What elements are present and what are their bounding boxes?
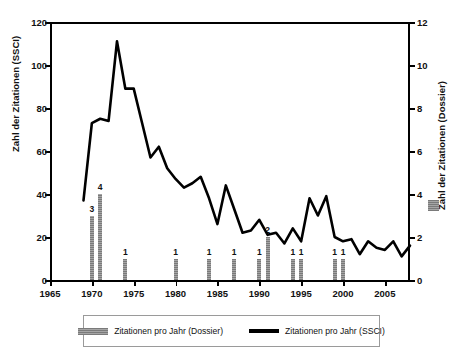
- legend-item-ssci: Zitationen pro Jahr (SSCI): [249, 326, 385, 336]
- citation-chart-figure: 020406080100120 024681012 19651970197519…: [0, 0, 460, 361]
- y-right-tick: [410, 22, 415, 24]
- y-right-tick-label-2: 4: [417, 189, 422, 200]
- y-left-tick-label-6: 120: [31, 17, 47, 28]
- chart-legend: Zitationen pro Jahr (Dossier) Zitationen…: [83, 315, 380, 347]
- x-tick-label-0: 1965: [39, 288, 60, 299]
- y-axis-right-title: Zahl der Zitationen (Dossier): [436, 81, 447, 210]
- x-tick-label-4: 1985: [207, 288, 228, 299]
- dossier-swatch-icon: [428, 200, 439, 211]
- y-right-tick-label-4: 8: [417, 103, 422, 114]
- y-left-tick-label-2: 40: [36, 189, 47, 200]
- legend-label-dossier: Zitationen pro Jahr (Dossier): [114, 326, 223, 336]
- y-right-tick-label-6: 12: [417, 17, 428, 28]
- y-right-tick-label-0: 0: [417, 275, 422, 286]
- y-right-tick: [410, 151, 415, 153]
- x-tick-label-3: 1980: [165, 288, 186, 299]
- plot-area: 020406080100120 024681012 19651970197519…: [50, 22, 410, 282]
- y-left-tick-label-4: 80: [36, 103, 47, 114]
- y-right-tick-label-3: 6: [417, 146, 422, 157]
- bar-swatch-icon: [78, 328, 108, 335]
- y-axis-left-title: Zahl der Zitationen (SSCI): [10, 36, 21, 152]
- x-tick-label-5: 1990: [249, 288, 270, 299]
- y-right-tick: [410, 194, 415, 196]
- legend-label-ssci: Zitationen pro Jahr (SSCI): [285, 326, 385, 336]
- y-right-tick: [410, 280, 415, 282]
- x-tick-label-6: 1995: [291, 288, 312, 299]
- y-right-tick: [410, 65, 415, 67]
- x-tick-label-8: 2005: [374, 288, 395, 299]
- x-tick-label-2: 1975: [123, 288, 144, 299]
- y-left-tick-label-0: 0: [42, 275, 47, 286]
- y-right-tick: [410, 237, 415, 239]
- ssci-line-path: [83, 41, 410, 256]
- line-swatch-icon: [249, 329, 279, 333]
- y-right-tick: [410, 108, 415, 110]
- y-left-tick-label-1: 20: [36, 232, 47, 243]
- y-right-tick-label-5: 10: [417, 60, 428, 71]
- x-tick-label-1: 1970: [81, 288, 102, 299]
- y-right-tick-label-1: 2: [417, 232, 422, 243]
- y-left-tick-label-3: 60: [36, 146, 47, 157]
- ssci-line-series: [50, 22, 410, 282]
- legend-item-dossier: Zitationen pro Jahr (Dossier): [78, 326, 223, 336]
- y-left-tick-label-5: 100: [31, 60, 47, 71]
- x-tick-label-7: 2000: [332, 288, 353, 299]
